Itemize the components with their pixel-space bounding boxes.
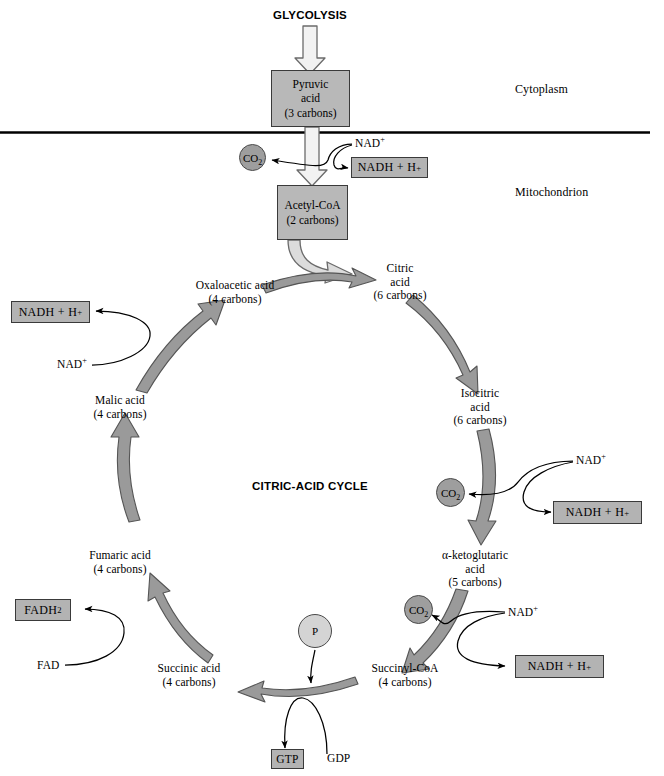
pyruvic-acid-carbons: (3 carbons) xyxy=(284,106,336,120)
nad-plus-label-kgdh: NAD+ xyxy=(508,606,538,620)
succinylcoa-carbons: (4 carbons) xyxy=(378,676,431,688)
nad-text: NAD xyxy=(355,137,380,149)
fumaric-name: Fumaric acid xyxy=(89,549,151,561)
fad-label: FAD xyxy=(37,659,59,673)
co2-node-kgdh: CO2 xyxy=(404,595,433,624)
fadh2-box: FADH2 xyxy=(15,599,71,621)
pyruvate-to-acetylcoa-arrow xyxy=(297,127,327,186)
arc-malate-to-oxaloacetate xyxy=(136,300,225,393)
citric-name2: acid xyxy=(390,276,410,288)
gtp-box: GTP xyxy=(271,749,304,769)
phosphate-input-curve xyxy=(311,650,315,683)
intermediate-label-alpha-ketoglutaric-acid: α-ketoglutaric acid (5 carbons) xyxy=(415,549,535,590)
metabolite-box-pyruvic-acid: Pyruvic acid (3 carbons) xyxy=(271,70,350,127)
intermediate-label-succinic-acid: Succinic acid (4 carbons) xyxy=(134,662,244,689)
cycle-center-title: CITRIC-ACID CYCLE xyxy=(225,480,395,494)
nad-plus-label-pdh: NAD+ xyxy=(355,137,385,151)
co2-text: CO2 xyxy=(409,604,428,616)
nadh-text: NADH + H xyxy=(358,160,417,175)
intermediate-label-oxaloacetic-acid: Oxaloacetic acid (4 carbons) xyxy=(175,279,295,306)
succinic-name: Succinic acid xyxy=(158,662,221,674)
nad-text: NAD xyxy=(508,606,533,618)
ketoglutaric-name2: acid xyxy=(465,563,485,575)
ketoglutaric-name: α-ketoglutaric xyxy=(442,549,508,561)
succinic-carbons: (4 carbons) xyxy=(162,676,215,688)
glycolysis-inflow-arrow xyxy=(295,26,325,74)
intermediate-label-isocitric-acid: Isocitric acid (6 carbons) xyxy=(435,387,525,428)
cytoplasm-label: Cytoplasm xyxy=(515,82,568,96)
malic-name: Malic acid xyxy=(95,394,145,406)
nad-superscript: + xyxy=(82,356,87,365)
nad-text: NAD xyxy=(576,454,601,466)
intermediate-label-succinyl-coa: Succinyl-CoA (4 carbons) xyxy=(350,662,460,689)
citric-name: Citric xyxy=(387,262,414,274)
nadh-text: NADH + H xyxy=(528,659,587,674)
ketoglutaric-carbons: (5 carbons) xyxy=(448,576,501,588)
arc-succinate-to-fumarate xyxy=(148,573,213,663)
nad-superscript: + xyxy=(533,604,538,613)
isocitric-name2: acid xyxy=(470,401,490,413)
nadh-box-pdh: NADH + H+ xyxy=(351,157,428,178)
nadh-box-mdh: NADH + H+ xyxy=(11,301,90,323)
phosphate-node: P xyxy=(298,614,332,648)
gdp-label: GDP xyxy=(327,752,350,766)
intermediate-label-citric-acid: Citric acid (6 carbons) xyxy=(355,262,445,303)
nadh-text: NADH + H xyxy=(19,305,78,320)
nad-superscript: + xyxy=(601,452,606,461)
metabolite-box-acetyl-coa: Acetyl-CoA (2 carbons) xyxy=(277,185,348,240)
arc-citrate-to-isocitrate xyxy=(406,295,478,394)
citric-carbons: (6 carbons) xyxy=(373,289,426,301)
fumaric-carbons: (4 carbons) xyxy=(93,563,146,575)
co2-node-pdh: CO2 xyxy=(239,144,266,171)
malic-carbons: (4 carbons) xyxy=(93,408,146,420)
intermediate-label-malic-acid: Malic acid (4 carbons) xyxy=(65,394,175,421)
phosphate-text: P xyxy=(312,625,318,637)
pyruvic-acid-line1: Pyruvic xyxy=(293,77,329,91)
nad-text: NAD xyxy=(57,358,82,370)
mdh-cofactor-curve xyxy=(92,311,150,365)
nadh-text: NADH + H xyxy=(566,505,625,520)
isocitric-name: Isocitric xyxy=(461,387,500,399)
isocitric-carbons: (6 carbons) xyxy=(453,414,506,426)
nad-superscript: + xyxy=(380,135,385,144)
arc-fumarate-to-malate xyxy=(111,413,140,522)
oxaloacetic-name: Oxaloacetic acid xyxy=(196,279,275,291)
nad-plus-label-idh: NAD+ xyxy=(576,454,606,468)
nad-plus-label-mdh: NAD+ xyxy=(57,358,87,372)
co2-node-idh: CO2 xyxy=(436,478,465,507)
co2-text: CO2 xyxy=(243,152,262,164)
arc-isocitrate-to-ketoglutarate xyxy=(468,429,496,545)
citric-acid-cycle-diagram: GLYCOLYSIS Cytoplasm Mitochondrion Pyruv… xyxy=(0,0,664,776)
intermediate-label-fumaric-acid: Fumaric acid (4 carbons) xyxy=(65,549,175,576)
nadh-box-idh: NADH + H+ xyxy=(553,501,642,524)
gdp-to-gtp-curve xyxy=(285,698,327,754)
fadh2-text: FADH xyxy=(24,603,57,618)
succinylcoa-name: Succinyl-CoA xyxy=(372,662,439,674)
nadh-box-kgdh: NADH + H+ xyxy=(515,655,604,678)
pyruvic-acid-line2: acid xyxy=(301,91,320,105)
sdh-cofactor-curve xyxy=(65,609,124,665)
glycolysis-label: GLYCOLYSIS xyxy=(255,9,365,23)
mitochondrion-label: Mitochondrion xyxy=(515,185,588,199)
acetyl-coa-carbons: (2 carbons) xyxy=(286,213,338,227)
acetyl-coa-name: Acetyl-CoA xyxy=(284,198,340,212)
oxaloacetic-carbons: (4 carbons) xyxy=(208,293,261,305)
co2-text: CO2 xyxy=(441,487,460,499)
